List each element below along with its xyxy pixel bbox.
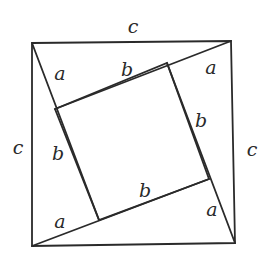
pythagorean-proof-diagram: cccaaaabbbb (0, 0, 269, 261)
inner-square (55, 63, 209, 220)
label-a-top-right: a (205, 56, 216, 78)
label-c-right: c (247, 138, 258, 160)
label-c-left: c (13, 136, 24, 158)
label-c-top: c (128, 15, 139, 37)
label-a-top-left: a (54, 62, 65, 84)
side-labels: cccaaaabbbb (13, 15, 258, 232)
diag-right (167, 63, 235, 243)
label-a-bottom-right: a (206, 198, 217, 220)
diagram-svg: cccaaaabbbb (0, 0, 269, 261)
label-b-right: b (195, 109, 207, 131)
label-b-bottom: b (139, 179, 151, 201)
label-a-bottom-left: a (54, 210, 65, 232)
label-b-top: b (121, 58, 133, 80)
label-b-left: b (52, 142, 64, 164)
